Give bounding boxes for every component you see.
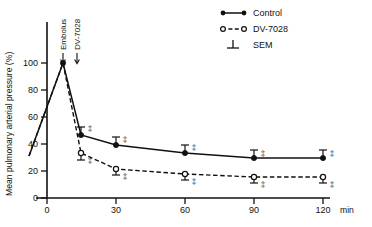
legend-sem-label: SEM	[253, 40, 273, 50]
x-axis-unit-label: min	[340, 205, 354, 215]
series-control: ‡ ‡ ‡ ‡ ‡	[29, 60, 334, 160]
data-point-control-120	[320, 155, 325, 160]
y-tick-label-60: 60	[28, 112, 38, 122]
data-point-control-60	[182, 150, 187, 155]
chart-figure: Mean pulmonary arterial pressure (%) 0 2…	[0, 0, 372, 227]
sig-control-90: ‡	[261, 149, 265, 158]
chart-legend: Control DV-7028 SEM	[221, 8, 288, 50]
legend-dv7028-label: DV-7028	[253, 24, 288, 34]
legend-dv7028-marker-left	[221, 27, 226, 32]
legend-item-sem: SEM	[227, 40, 273, 50]
y-tick-label-0: 0	[33, 193, 38, 203]
series-dv7028-line	[29, 63, 323, 177]
y-tick-label-80: 80	[28, 85, 38, 95]
sig-control-15: ‡	[88, 124, 92, 133]
y-axis-tick-labels: 0 20 40 60 80 100	[23, 58, 38, 203]
annotation-embolus: Embolus	[59, 19, 68, 64]
legend-control-label: Control	[253, 8, 282, 18]
sig-control-30: ‡	[123, 135, 127, 144]
sig-control-120: ‡	[330, 149, 334, 158]
sig-dv7028-60: ‡	[192, 177, 196, 186]
x-axis-ticks	[47, 198, 323, 204]
x-tick-label-90: 90	[249, 205, 259, 215]
sig-control-60: ‡	[192, 143, 196, 152]
x-tick-label-30: 30	[111, 205, 121, 215]
x-tick-label-120: 120	[315, 205, 330, 215]
sig-dv7028-120: ‡	[330, 180, 334, 189]
sig-dv7028-15: ‡	[88, 156, 92, 165]
annotation-embolus-label: Embolus	[59, 19, 68, 50]
x-tick-label-0: 0	[44, 205, 49, 215]
series-dv7028-significance: ‡ ‡ ‡ ‡ ‡	[88, 156, 334, 189]
y-axis-ticks	[41, 63, 47, 198]
data-point-control-15	[78, 132, 83, 137]
data-point-dv7028-30	[113, 166, 118, 171]
y-axis-title: Mean pulmonary arterial pressure (%)	[4, 52, 14, 196]
legend-item-control: Control	[221, 8, 282, 18]
y-tick-label-100: 100	[23, 58, 38, 68]
x-axis-tick-labels: 0 30 60 90 120	[44, 205, 330, 215]
data-point-dv7028-120	[320, 174, 325, 179]
sig-dv7028-30: ‡	[123, 172, 127, 181]
y-tick-label-20: 20	[28, 166, 38, 176]
legend-dv7028-marker-right	[242, 27, 247, 32]
data-point-dv7028-60	[182, 171, 187, 176]
chart-canvas: Mean pulmonary arterial pressure (%) 0 2…	[0, 0, 372, 227]
data-point-control-peak	[60, 60, 65, 65]
series-control-significance: ‡ ‡ ‡ ‡ ‡	[88, 124, 334, 158]
data-point-control-30	[113, 142, 118, 147]
data-point-dv7028-15	[78, 150, 83, 155]
data-point-control-90	[251, 155, 256, 160]
legend-control-marker-right	[242, 11, 247, 16]
legend-control-marker-left	[221, 11, 226, 16]
series-control-line	[29, 63, 323, 158]
data-point-dv7028-90	[251, 174, 256, 179]
legend-item-dv7028: DV-7028	[221, 24, 288, 34]
sig-dv7028-90: ‡	[261, 180, 265, 189]
annotation-dv7028-label: DV-7028	[73, 18, 82, 50]
x-tick-label-60: 60	[180, 205, 190, 215]
series-dv7028: ‡ ‡ ‡ ‡ ‡	[29, 63, 334, 189]
annotation-dv7028: DV-7028	[73, 18, 82, 63]
